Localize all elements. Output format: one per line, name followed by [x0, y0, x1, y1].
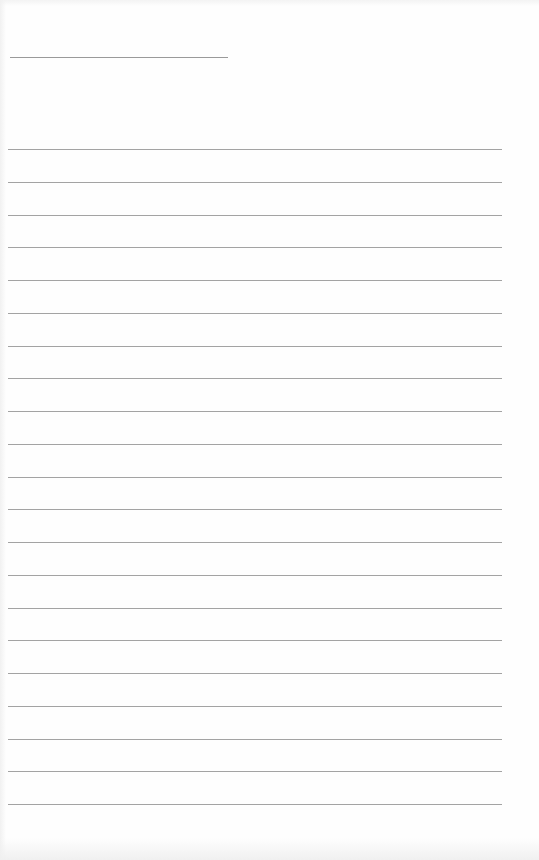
header-name-line	[10, 57, 228, 58]
lined-paper-page	[0, 0, 539, 860]
ruled-line	[8, 771, 502, 772]
ruled-line	[8, 706, 502, 707]
page-left-edge	[0, 0, 6, 860]
ruled-line	[8, 378, 502, 379]
ruled-line	[8, 542, 502, 543]
ruled-line	[8, 739, 502, 740]
ruled-line	[8, 509, 502, 510]
ruled-line	[8, 280, 502, 281]
page-bottom-edge	[0, 838, 539, 860]
ruled-line	[8, 313, 502, 314]
ruled-line	[8, 640, 502, 641]
ruled-line	[8, 182, 502, 183]
ruled-line	[8, 804, 502, 805]
ruled-line	[8, 608, 502, 609]
ruled-line	[8, 149, 502, 150]
ruled-line	[8, 346, 502, 347]
page-top-edge	[0, 0, 539, 6]
ruled-line	[8, 215, 502, 216]
ruled-line	[8, 411, 502, 412]
ruled-line	[8, 575, 502, 576]
ruled-line	[8, 673, 502, 674]
ruled-line	[8, 247, 502, 248]
ruled-line	[8, 477, 502, 478]
ruled-line	[8, 444, 502, 445]
